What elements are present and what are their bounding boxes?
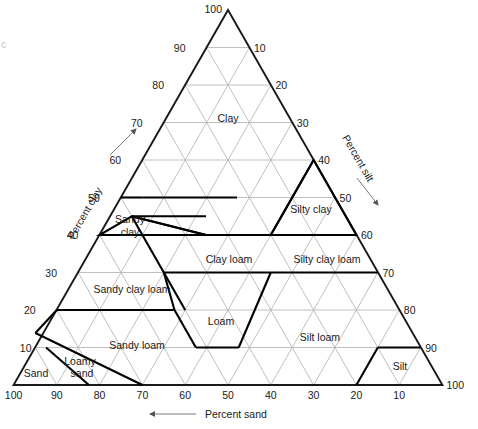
- tick-bottom-10: 10: [393, 389, 405, 401]
- tick-right-40: 40: [318, 154, 330, 166]
- right-axis-ticks: 10 20 30 40 50 60 70 80 90 100: [254, 42, 464, 392]
- label-sandy-clay-line2: clay: [121, 226, 140, 238]
- apex-label: 100: [204, 3, 222, 15]
- tick-right-50: 50: [340, 192, 352, 204]
- ternary-diagram-svg: c: [0, 0, 478, 429]
- tick-bottom-50: 50: [222, 389, 234, 401]
- soil-texture-triangle-figure: c: [0, 0, 478, 429]
- label-sandy-clay-loam: Sandy clay loam: [93, 283, 170, 295]
- gridlines-group: [35, 48, 420, 386]
- label-silt-loam: Silt loam: [300, 331, 341, 343]
- bottom-axis-title-group: Percent sand: [150, 408, 267, 420]
- label-sandy-clay-line1: Sandy: [115, 213, 146, 225]
- label-clay-loam: Clay loam: [206, 253, 253, 265]
- tick-right-100: 100: [447, 379, 465, 391]
- tick-bottom-30: 30: [308, 389, 320, 401]
- tick-bottom-80: 80: [94, 389, 106, 401]
- tick-right-20: 20: [275, 79, 287, 91]
- tick-right-60: 60: [361, 229, 373, 241]
- tick-bottom-70: 70: [137, 389, 149, 401]
- label-clay: Clay: [217, 112, 239, 124]
- tick-left-70: 70: [131, 117, 143, 129]
- left-axis-title: Percent clay: [65, 184, 105, 241]
- tick-right-70: 70: [382, 267, 394, 279]
- label-sandy-loam: Sandy loam: [109, 339, 165, 351]
- label-silty-clay: Silty clay: [290, 203, 332, 215]
- tick-left-80: 80: [152, 79, 164, 91]
- bottom-axis-title: Percent sand: [205, 408, 267, 420]
- label-silt: Silt: [393, 360, 408, 372]
- edge-artifact: c: [1, 38, 6, 50]
- label-loamy-sand-line2: sand: [71, 367, 94, 379]
- tick-bottom-20: 20: [351, 389, 363, 401]
- percent-clay-arrow: [110, 129, 136, 155]
- label-loamy-sand-line1: Loamy: [64, 355, 96, 367]
- tick-right-10: 10: [254, 42, 266, 54]
- tick-bottom-90: 90: [51, 389, 63, 401]
- tick-left-90: 90: [174, 42, 186, 54]
- tick-left-20: 20: [24, 304, 36, 316]
- tick-bottom-100: 100: [5, 389, 23, 401]
- tick-bottom-60: 60: [179, 389, 191, 401]
- tick-left-10: 10: [20, 342, 32, 354]
- label-silty-clay-loam: Silty clay loam: [293, 253, 360, 265]
- tick-left-60: 60: [110, 154, 122, 166]
- tick-right-30: 30: [297, 117, 309, 129]
- right-axis-title: Percent silt: [340, 133, 376, 184]
- tick-bottom-40: 40: [265, 389, 277, 401]
- label-loam: Loam: [208, 315, 235, 327]
- tick-right-90: 90: [425, 342, 437, 354]
- svg-text:c: c: [1, 38, 6, 50]
- bottom-axis-ticks: 100 90 80 70 60 50 40 30 20 10: [5, 389, 405, 401]
- label-sand: Sand: [24, 367, 49, 379]
- tick-left-30: 30: [45, 267, 57, 279]
- tick-right-80: 80: [404, 304, 416, 316]
